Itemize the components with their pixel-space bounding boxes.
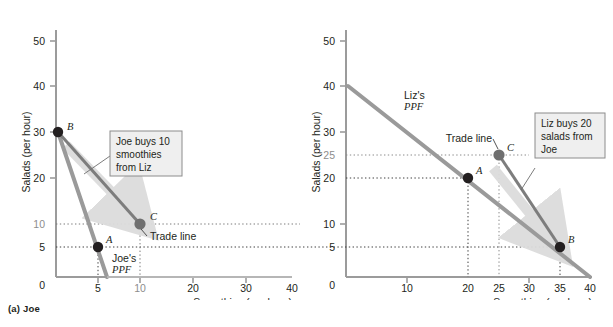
point-b-label-joe: B	[67, 121, 74, 132]
xtick-joe-30: 30	[240, 282, 252, 294]
ppf-label-joe: Joe's	[112, 252, 136, 264]
x-axis-title-joe: Smoothies (per hour)	[193, 296, 292, 300]
xtick-joe-5: 5	[95, 282, 101, 294]
trade-arrow-liz	[493, 168, 548, 236]
point-b-joe	[53, 127, 63, 137]
ytick-liz-50: 50	[323, 35, 335, 47]
point-a-joe	[93, 242, 103, 252]
ppf-gains-from-trade-figure: 50 40 30 20 10 5 0 5 10 20 30 40 Salads …	[0, 0, 613, 327]
panel-liz: 50 40 30 25 20 10 5 0 10 20 25 30 35 40 …	[307, 0, 613, 327]
ytick-liz-10: 10	[323, 218, 335, 230]
ppf-label-liz: Liz's	[404, 89, 425, 101]
xtick-liz-40: 40	[584, 282, 596, 294]
point-c-joe	[134, 218, 145, 229]
ppf-line-joe	[58, 132, 107, 277]
ytick-liz-40: 40	[323, 80, 335, 92]
point-b-liz	[555, 242, 565, 252]
callout-leader-liz	[521, 168, 535, 190]
panel-joe: 50 40 30 20 10 5 0 5 10 20 30 40 Salads …	[0, 0, 306, 327]
chart-joe: 50 40 30 20 10 5 0 5 10 20 30 40 Salads …	[0, 0, 306, 300]
point-b-label-liz: B	[568, 234, 575, 245]
point-a-label-liz: A	[475, 165, 483, 176]
xtick-joe-20: 20	[187, 282, 199, 294]
ytick-joe-0: 0	[39, 279, 45, 291]
trade-line-label-liz: Trade line	[446, 132, 492, 144]
ytick-liz-5: 5	[329, 241, 335, 253]
ytick-liz-30: 30	[323, 126, 335, 138]
ytick-joe-10: 10	[33, 218, 45, 230]
ytick-liz-0: 0	[329, 279, 335, 291]
xtick-liz-25: 25	[493, 282, 505, 294]
xtick-joe-10: 10	[134, 282, 146, 294]
point-a-liz	[463, 173, 473, 183]
xtick-liz-10: 10	[401, 282, 413, 294]
point-c-label-joe: C	[150, 211, 158, 222]
y-axis-title-liz: Salads (per hour)	[310, 111, 322, 192]
ppf-label-italic-liz: PPF	[403, 101, 424, 112]
ppf-label-italic-joe: PPF	[111, 264, 132, 275]
trade-line-liz	[499, 155, 560, 247]
y-axis-title-joe: Salads (per hour)	[20, 111, 32, 192]
ytick-liz-25: 25	[323, 149, 335, 161]
point-c-liz	[493, 149, 504, 160]
trade-line-label-joe: Trade line	[150, 230, 196, 242]
point-a-label-joe: A	[105, 234, 113, 245]
ytick-liz-20: 20	[323, 172, 335, 184]
xtick-liz-30: 30	[523, 282, 535, 294]
xtick-liz-20: 20	[462, 282, 474, 294]
chart-liz: 50 40 30 25 20 10 5 0 10 20 25 30 35 40 …	[307, 0, 613, 300]
ytick-joe-40: 40	[33, 80, 45, 92]
xtick-joe-40: 40	[286, 282, 298, 294]
ytick-joe-5: 5	[39, 241, 45, 253]
ytick-joe-20: 20	[33, 172, 45, 184]
ytick-joe-50: 50	[33, 35, 45, 47]
ytick-joe-30: 30	[33, 126, 45, 138]
point-c-label-liz: C	[507, 142, 515, 153]
panel-caption-joe: (a) Joe	[8, 303, 40, 314]
x-axis-title-liz: Smoothies (per hour)	[493, 296, 592, 300]
xtick-liz-35: 35	[554, 282, 566, 294]
